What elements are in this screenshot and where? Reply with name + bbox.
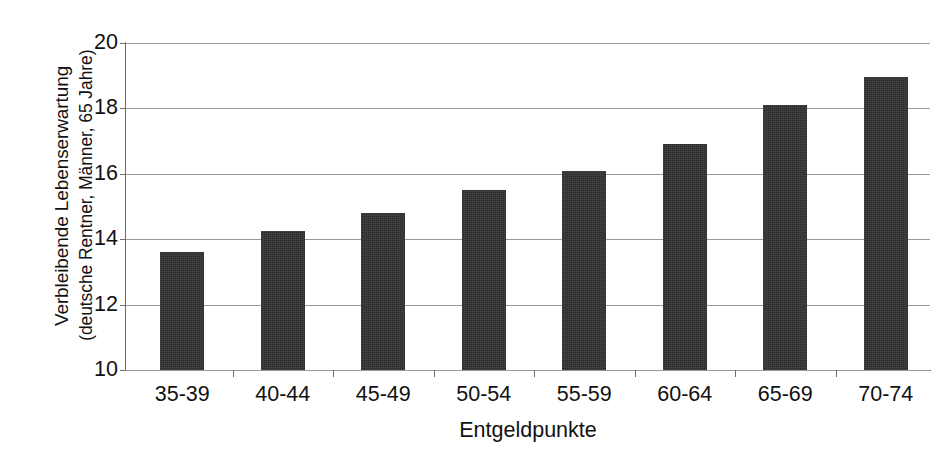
x-axis-tick-label: 65-69 [735, 384, 835, 406]
y-axis-tick-mark [120, 43, 126, 44]
x-axis-tick-mark [635, 370, 636, 377]
x-axis-tick-mark [233, 370, 234, 377]
bar [261, 231, 305, 370]
y-axis-tick-label: 16 [94, 163, 118, 185]
y-axis-tick-label: 14 [94, 228, 118, 250]
gridline [126, 305, 930, 306]
x-axis-title: Entgeldpunkte [126, 418, 930, 443]
y-axis-tick-label: 18 [94, 98, 118, 120]
bar [160, 252, 204, 370]
y-axis-tick-label: 12 [94, 294, 118, 316]
y-axis-line [125, 42, 126, 371]
x-axis-tick-mark [434, 370, 435, 377]
y-axis-tick-label: 20 [94, 32, 118, 54]
bar [562, 171, 606, 370]
bar [663, 144, 707, 370]
gridline [126, 239, 930, 240]
bar [763, 105, 807, 370]
bar-chart-figure: Verbleibende Lebenserwartung (deutsche R… [0, 0, 950, 458]
x-axis-tick-label: 40-44 [233, 384, 333, 406]
y-axis-tick-mark [120, 305, 126, 306]
bar [864, 77, 908, 370]
x-axis-tick-mark [534, 370, 535, 377]
x-axis-tick-label: 55-59 [534, 384, 634, 406]
x-axis-tick-labels: 35-3940-4445-4950-5455-5960-6465-6970-74 [126, 384, 930, 414]
x-axis-tick-mark [836, 370, 837, 377]
x-axis-tick-label: 60-64 [635, 384, 735, 406]
x-axis-tick-label: 35-39 [132, 384, 232, 406]
y-axis-tick-mark [120, 174, 126, 175]
y-axis-tick-mark [120, 108, 126, 109]
plot-area [126, 43, 930, 370]
gridline [126, 43, 930, 44]
gridline [126, 370, 930, 371]
x-axis-tick-label: 70-74 [836, 384, 936, 406]
y-axis-title-line-1: Verbleibende Lebenserwartung [52, 6, 72, 386]
y-axis-tick-mark [120, 239, 126, 240]
y-axis-tick-label: 10 [94, 359, 118, 381]
y-axis-tick-labels: 201816141210 [70, 43, 118, 370]
x-axis-tick-mark [735, 370, 736, 377]
x-axis-tick-label: 45-49 [333, 384, 433, 406]
gridline [126, 108, 930, 109]
y-axis-tick-mark [120, 370, 126, 371]
x-axis-tick-mark [333, 370, 334, 377]
x-axis-tick-label: 50-54 [434, 384, 534, 406]
bar [361, 213, 405, 370]
bar [462, 190, 506, 370]
gridline [126, 174, 930, 175]
